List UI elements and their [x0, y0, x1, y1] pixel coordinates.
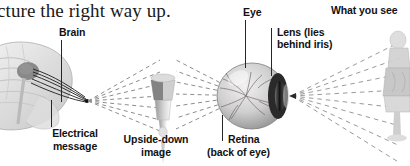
- dashed-light-rays-object: [292, 42, 400, 163]
- lens-shape: [275, 81, 285, 111]
- electrical-leader-line: [51, 100, 52, 127]
- vision-diagram: cture the right way up. What you see Bra…: [0, 0, 410, 166]
- label-retina-line1: Retina: [228, 133, 260, 146]
- cornea-highlight: [276, 74, 285, 119]
- eyeball-illustration: [217, 63, 289, 129]
- label-retina-line2: (back of eye): [207, 146, 270, 159]
- label-upside-down-line2: image: [118, 146, 194, 159]
- upright-figure-illustration: [383, 31, 410, 142]
- label-electrical-line2: message: [44, 140, 106, 153]
- brain-leader-line: [61, 40, 62, 102]
- lens-leader-line: [271, 28, 272, 76]
- label-lens-line1: Lens (lies: [277, 26, 324, 39]
- label-eye: Eye: [243, 6, 261, 19]
- label-what-you-see: What you see: [331, 4, 397, 17]
- optic-nerve-lines: [31, 69, 86, 102]
- eye-leader-line: [245, 20, 246, 68]
- dashed-light-rays-brain: [88, 60, 160, 131]
- label-upside-down-line1: Upside-down: [118, 133, 194, 146]
- nerve-convergence-point: [85, 99, 89, 103]
- dashed-light-rays-image: [176, 60, 246, 129]
- label-electrical-line1: Electrical: [44, 127, 106, 140]
- retina-leader-line: [222, 115, 223, 141]
- ray-arrow: [289, 93, 296, 99]
- label-brain: Brain: [59, 26, 85, 39]
- iris-shape: [268, 73, 288, 119]
- body-text-fragment: cture the right way up.: [0, 0, 171, 22]
- label-lens-line2: behind iris): [277, 38, 332, 51]
- retina-blood-vessels: [220, 72, 276, 120]
